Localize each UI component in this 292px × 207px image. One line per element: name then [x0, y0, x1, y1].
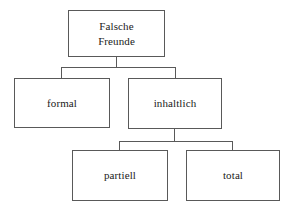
node-total[interactable]: total	[186, 150, 280, 201]
node-inhaltlich[interactable]: inhaltlich	[128, 78, 222, 129]
tree-diagram: Falsche Freunde formal inhaltlich partie…	[0, 0, 292, 207]
node-falsche-freunde-line2: Freunde	[98, 34, 135, 49]
node-inhaltlich-label: inhaltlich	[154, 96, 197, 111]
node-total-label: total	[223, 168, 243, 183]
node-falsche-freunde-line1: Falsche	[99, 19, 133, 34]
connector-level2-bar	[61, 67, 176, 68]
connector-inhaltlich-stem	[174, 129, 175, 141]
node-formal-label: formal	[47, 96, 77, 111]
node-partiell[interactable]: partiell	[72, 150, 168, 201]
connector-level3-bar	[119, 141, 233, 142]
node-partiell-label: partiell	[104, 168, 136, 183]
node-falsche-freunde[interactable]: Falsche Freunde	[68, 10, 165, 57]
node-formal[interactable]: formal	[14, 78, 110, 128]
